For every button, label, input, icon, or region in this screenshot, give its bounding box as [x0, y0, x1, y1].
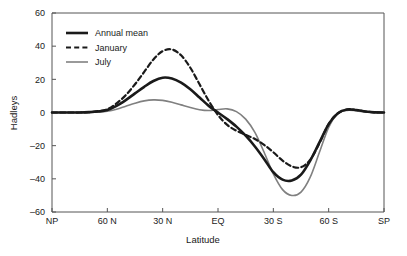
- y-tick-label: 40: [35, 41, 45, 51]
- series-line-annual-mean: [52, 78, 384, 181]
- x-axis-ticks: NP60 N30 NEQ30 S60 SSP: [46, 208, 390, 226]
- x-tick-label: EQ: [211, 216, 224, 226]
- y-tick-label: 20: [35, 75, 45, 85]
- x-tick-label: SP: [378, 216, 390, 226]
- y-tick-label: –40: [30, 174, 45, 184]
- x-axis-title: Latitude: [186, 234, 220, 245]
- legend-label-july: July: [95, 57, 112, 67]
- y-axis-title: Hadleys: [8, 96, 19, 131]
- y-tick-label: 60: [35, 8, 45, 18]
- data-series-group: [52, 49, 384, 195]
- y-tick-label: –60: [30, 207, 45, 217]
- y-tick-label: 0: [40, 108, 45, 118]
- y-tick-label: –20: [30, 141, 45, 151]
- legend-label-annual-mean: Annual mean: [95, 28, 148, 38]
- chart-legend: Annual meanJanuaryJuly: [66, 28, 148, 67]
- legend-label-january: January: [95, 43, 128, 53]
- x-tick-label: 30 N: [153, 216, 172, 226]
- line-chart: 6040200–20–40–60 NP60 N30 NEQ30 S60 SSP …: [0, 0, 407, 256]
- x-tick-label: 60 N: [98, 216, 117, 226]
- x-tick-label: NP: [46, 216, 59, 226]
- x-tick-label: 60 S: [319, 216, 338, 226]
- x-tick-label: 30 S: [264, 216, 283, 226]
- chart-figure: 6040200–20–40–60 NP60 N30 NEQ30 S60 SSP …: [0, 0, 407, 256]
